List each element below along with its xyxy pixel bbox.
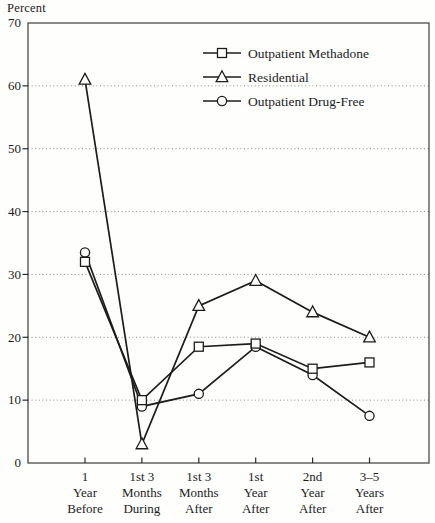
marker-residential	[307, 306, 319, 317]
y-tick-label-20: 20	[8, 330, 21, 345]
x-category-label-3: 1stYearAfter	[242, 469, 270, 516]
line-chart-canvas: 0102030405060701YearBefore1st 3MonthsDur…	[0, 0, 435, 523]
x-category-label-2: 1st 3MonthsAfter	[179, 469, 219, 516]
y-tick-label-40: 40	[8, 204, 21, 219]
x-category-label-4: 2ndYearAfter	[299, 469, 327, 516]
y-tick-label-30: 30	[8, 267, 21, 282]
y-tick-label-10: 10	[8, 392, 21, 407]
series-line-residential	[85, 80, 370, 445]
legend-item-outpatient-methadone: Outpatient Methadone	[203, 46, 369, 61]
marker-outpatient-methadone	[81, 257, 90, 266]
marker-outpatient-drug-free	[365, 411, 374, 420]
marker-outpatient-methadone	[137, 396, 146, 405]
chart-figure: Percent 0102030405060701YearBefore1st 3M…	[0, 0, 435, 523]
marker-outpatient-methadone	[194, 342, 203, 351]
x-category-label-5: 3–5YearsAfter	[355, 469, 384, 516]
marker-residential	[250, 275, 262, 286]
legend-label-residential: Residential	[248, 70, 309, 85]
y-tick-label-70: 70	[8, 15, 21, 30]
series-line-outpatient-methadone	[85, 262, 370, 400]
legend-marker-outpatient-methadone	[218, 49, 227, 58]
legend-label-outpatient-methadone: Outpatient Methadone	[248, 46, 369, 61]
x-category-label-0: 1YearBefore	[67, 469, 103, 516]
marker-outpatient-methadone	[365, 358, 374, 367]
series-line-outpatient-drug-free	[85, 252, 370, 415]
y-tick-label-60: 60	[8, 78, 21, 93]
marker-residential	[79, 73, 91, 84]
y-tick-label-0: 0	[15, 455, 22, 470]
marker-residential	[364, 331, 376, 342]
legend-label-outpatient-drug-free: Outpatient Drug-Free	[248, 94, 365, 109]
marker-outpatient-methadone	[251, 339, 260, 348]
marker-outpatient-methadone	[308, 364, 317, 373]
marker-residential	[136, 438, 148, 449]
marker-residential	[193, 300, 205, 311]
plot-border	[28, 23, 429, 463]
legend-item-residential: Residential	[203, 70, 309, 85]
legend-item-outpatient-drug-free: Outpatient Drug-Free	[203, 94, 365, 109]
marker-outpatient-drug-free	[194, 389, 203, 398]
legend-marker-outpatient-drug-free	[217, 96, 226, 105]
y-tick-label-50: 50	[8, 141, 21, 156]
x-category-label-1: 1st 3MonthsDuring	[122, 469, 162, 516]
marker-outpatient-drug-free	[80, 248, 89, 257]
